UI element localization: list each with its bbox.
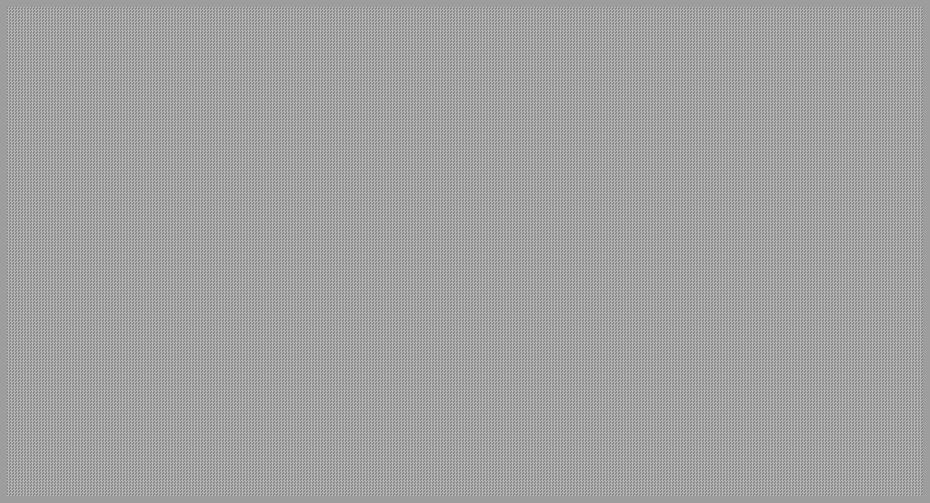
bar-software-development[interactable] — [264, 160, 357, 210]
bar-on-line-marketing[interactable] — [264, 261, 511, 311]
category-label-customer-service: Customer Service — [6, 64, 250, 84]
value-axis-labels: 0% 20% 40% 60% 80% 100% — [264, 452, 881, 486]
x-tick-label-40: 40% — [489, 452, 533, 474]
category-label-product-development: Product development — [6, 367, 250, 387]
x-tick-label-20: 20% — [365, 452, 409, 474]
plot-area — [264, 38, 881, 444]
gridline-20 — [387, 38, 388, 444]
bar-customer-service[interactable] — [264, 59, 295, 109]
category-label-on-line-marketing: On-line Marketing — [6, 266, 250, 286]
bar-product-development[interactable] — [264, 362, 387, 412]
x-tick-label-0: 0% — [248, 452, 280, 474]
category-axis-labels: Customer Service Software development On… — [6, 38, 250, 444]
gridline-80 — [757, 38, 758, 444]
gridline-40 — [511, 38, 512, 444]
x-tick-label-80: 80% — [735, 452, 779, 474]
category-label-software-development: Software development — [6, 165, 250, 185]
x-tick-label-100: 100% — [852, 452, 908, 474]
x-tick-label-60: 60% — [612, 452, 656, 474]
gridline-100 — [880, 38, 881, 444]
x-axis-line — [264, 444, 881, 445]
gridline-60 — [634, 38, 635, 444]
bar-chart-figure: Customer Service Software development On… — [0, 0, 930, 503]
